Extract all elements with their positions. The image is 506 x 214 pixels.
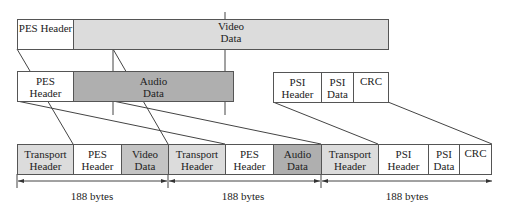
- ts2-size-label: 188 bytes: [183, 190, 303, 202]
- ts1-transport-header: Transport Header: [17, 144, 74, 175]
- ts1-pes-header: PES Header: [73, 144, 122, 175]
- video-pes-header: PES Header: [17, 19, 74, 50]
- ts3-crc: CRC: [459, 144, 492, 175]
- ts2-pes-header: PES Header: [225, 144, 274, 175]
- mapping-line: [17, 101, 225, 144]
- ts3-size-label: 188 bytes: [347, 190, 467, 202]
- ts2-transport-header: Transport Header: [168, 144, 226, 175]
- video-pes-data: Video Data: [73, 19, 389, 50]
- audio-pes-header: PES Header: [17, 71, 74, 102]
- ts2-audio-data: Audio Data: [273, 144, 322, 175]
- psi-header: PSI Header: [273, 72, 322, 103]
- ts1-size-label: 188 bytes: [32, 190, 152, 202]
- audio-pes-data: Audio Data: [73, 71, 234, 102]
- ts3-psi-data: PSI Data: [428, 144, 460, 175]
- ts1-video-data: Video Data: [121, 144, 169, 175]
- psi-data: PSI Data: [321, 72, 354, 103]
- mapping-line: [113, 101, 321, 144]
- mapping-line: [388, 102, 492, 144]
- ts3-psi-header: PSI Header: [378, 144, 429, 175]
- psi-crc: CRC: [353, 72, 389, 103]
- ts3-transport-header: Transport Header: [321, 144, 379, 175]
